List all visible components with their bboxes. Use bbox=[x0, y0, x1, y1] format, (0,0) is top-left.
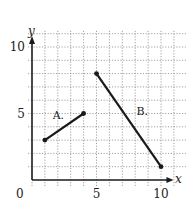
segment-b-label: B. bbox=[136, 105, 148, 118]
origin-label: 0 bbox=[16, 187, 24, 201]
segment-b-endpoint-1 bbox=[94, 71, 99, 76]
x-tick-10: 10 bbox=[153, 187, 168, 201]
plot-area: A.B. 0 5 10 5 10 x y bbox=[0, 0, 196, 211]
segment-a-label: A. bbox=[52, 109, 64, 122]
x-axis-label: x bbox=[175, 172, 182, 186]
segment-a-endpoint-2 bbox=[81, 111, 86, 116]
y-tick-10: 10 bbox=[10, 40, 25, 54]
segment-b-endpoint-2 bbox=[159, 164, 164, 169]
y-axis-label: y bbox=[27, 24, 35, 38]
segment-a-endpoint-1 bbox=[43, 138, 48, 143]
y-tick-5: 5 bbox=[17, 107, 25, 121]
x-tick-5: 5 bbox=[93, 187, 101, 201]
segment-b: B. bbox=[94, 71, 163, 169]
x-axis-arrow-icon bbox=[166, 177, 173, 183]
segments: A.B. bbox=[43, 71, 164, 169]
axes bbox=[29, 36, 173, 183]
segment-b-line bbox=[97, 74, 162, 167]
coordinate-plane-chart: A.B. 0 5 10 5 10 x y bbox=[0, 0, 196, 211]
